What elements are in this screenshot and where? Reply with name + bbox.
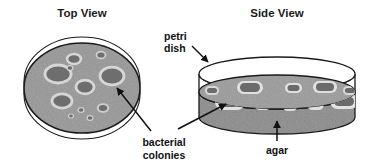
- colony: [99, 66, 126, 86]
- colony: [66, 53, 82, 65]
- colony: [86, 115, 93, 121]
- petri-dish-diagram: Top View Side View petri dish bacterial …: [0, 0, 384, 168]
- colony: [51, 93, 74, 110]
- petri-dish-label-line2: dish: [164, 42, 186, 54]
- agar-label: agar: [266, 144, 288, 156]
- colony: [75, 79, 96, 95]
- top-view-title: Top View: [57, 7, 106, 19]
- colony: [285, 83, 302, 93]
- top-view-panel: [24, 37, 140, 139]
- colony: [205, 86, 219, 95]
- petri-dish-label-line1: petri: [164, 30, 187, 42]
- petri-dish-leader-arrow: [192, 46, 208, 62]
- colony: [66, 65, 73, 71]
- side-view-title: Side View: [250, 7, 304, 19]
- colony: [313, 81, 337, 93]
- figure-canvas: Top View Side View petri dish bacterial …: [0, 0, 384, 168]
- colony: [96, 51, 107, 59]
- side-view-panel: [199, 57, 358, 134]
- colony: [77, 107, 84, 113]
- bacterial-colonies-label-line2: colonies: [143, 149, 186, 161]
- colony: [237, 81, 263, 94]
- colony: [97, 103, 109, 113]
- bacterial-colonies-label-line1: bacterial: [142, 136, 185, 148]
- colony: [68, 114, 74, 119]
